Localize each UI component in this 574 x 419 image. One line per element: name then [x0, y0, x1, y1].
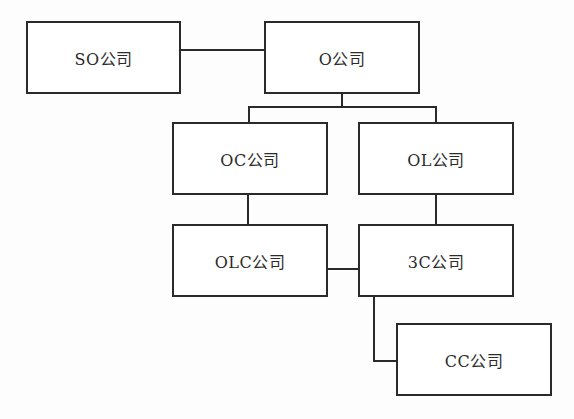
node-label: OC公司 [220, 147, 279, 171]
node-ol-company: OL公司 [358, 122, 514, 195]
node-olc-company: OLC公司 [172, 224, 328, 297]
node-cc-company: CC公司 [396, 323, 552, 396]
connector-3c-cc [373, 360, 398, 362]
connector-olc-3c [327, 268, 360, 270]
node-label: SO公司 [74, 46, 132, 70]
node-oc-company: OC公司 [172, 122, 328, 195]
node-label: CC公司 [445, 348, 503, 372]
node-label: 3C公司 [408, 249, 464, 273]
connector-o-branch [248, 106, 437, 108]
node-3c-company: 3C公司 [358, 224, 514, 297]
diagram-canvas: SO公司 O公司 OC公司 OL公司 OLC公司 3C公司 CC公司 [0, 0, 574, 419]
node-label: OLC公司 [215, 249, 285, 273]
connector-3c-down [373, 296, 375, 362]
connector-oc-olc [247, 194, 249, 226]
node-o-company: O公司 [264, 21, 420, 94]
connector-ol-3c [435, 194, 437, 226]
node-label: OL公司 [407, 147, 465, 171]
node-so-company: SO公司 [26, 21, 181, 94]
node-label: O公司 [319, 46, 366, 70]
connector-so-o [180, 49, 266, 51]
